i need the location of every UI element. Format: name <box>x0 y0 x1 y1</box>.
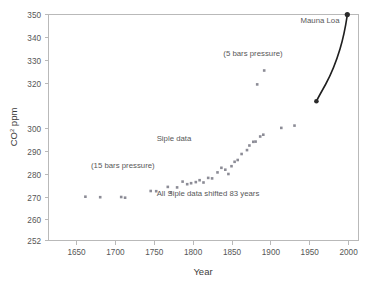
annotation-mauna-loa: Mauna Loa <box>300 16 340 25</box>
y-axis-ticks <box>45 15 49 241</box>
y-ticklabel-340: 340 <box>27 34 41 43</box>
data-point <box>233 161 236 164</box>
data-point <box>207 177 210 180</box>
data-point <box>124 196 127 199</box>
x-ticklabel-1700: 1700 <box>106 248 125 257</box>
data-point <box>256 83 259 86</box>
x-ticklabel-1750: 1750 <box>145 248 164 257</box>
data-point <box>120 196 123 199</box>
data-point <box>186 183 189 186</box>
series-mauna-loa-points <box>314 12 350 103</box>
y-ticklabel-300: 300 <box>27 125 41 134</box>
data-point <box>314 99 319 104</box>
x-ticklabel-1950: 1950 <box>301 248 320 257</box>
y-axis-title-base: CO <box>8 132 19 146</box>
y-ticklabel-350: 350 <box>27 11 41 20</box>
x-ticklabel-1800: 1800 <box>184 248 203 257</box>
y-ticklabel-270: 270 <box>27 194 41 203</box>
y-ticklabel-252: 252 <box>27 237 41 246</box>
data-point <box>259 135 262 138</box>
y-axis-ticklabels: 350 340 330 320 300 290 280 270 260 252 <box>27 11 41 246</box>
data-point <box>216 171 219 174</box>
data-point <box>167 186 170 189</box>
x-axis-ticks <box>77 241 349 245</box>
data-point <box>254 140 257 143</box>
y-axis-title: CO2 ppm <box>8 108 19 147</box>
annotation-5-bars: (5 bars pressure) <box>223 49 283 58</box>
annotation-15-bars: (15 bars pressure) <box>91 161 155 170</box>
data-point <box>240 153 243 156</box>
data-point <box>252 141 255 144</box>
plot-frame <box>49 15 359 241</box>
data-point <box>84 195 87 198</box>
co2-chart-figure: 350 340 330 320 300 290 280 270 260 252 … <box>0 0 378 291</box>
y-axis-title-unit: ppm <box>8 108 19 127</box>
data-point <box>149 190 152 193</box>
data-point <box>236 159 239 162</box>
x-axis-title: Year <box>193 266 212 277</box>
annotation-siple-data: Siple data <box>157 134 192 143</box>
y-ticklabel-320: 320 <box>27 80 41 89</box>
data-point <box>195 181 198 184</box>
data-point <box>99 196 102 199</box>
data-point <box>224 168 227 171</box>
data-point <box>246 149 249 152</box>
data-point <box>230 165 233 168</box>
data-point <box>202 181 205 184</box>
y-ticklabel-280: 280 <box>27 171 41 180</box>
y-ticklabel-260: 260 <box>27 216 41 225</box>
data-point <box>248 144 251 147</box>
data-point <box>227 173 230 176</box>
data-point <box>263 69 266 72</box>
data-point <box>280 127 283 130</box>
data-point <box>345 12 350 17</box>
x-ticklabel-2000: 2000 <box>339 248 358 257</box>
x-axis-ticklabels: 1650 1700 1750 1800 1850 1900 1950 2000 <box>67 248 358 257</box>
annotation-shift-note: All Siple data shifted 83 years <box>157 189 260 198</box>
mauna-loa-curve <box>316 16 347 102</box>
data-point <box>198 179 201 182</box>
data-point <box>190 182 193 185</box>
data-point <box>211 177 214 180</box>
y-ticklabel-290: 290 <box>27 148 41 157</box>
data-point <box>220 167 223 170</box>
x-ticklabel-1650: 1650 <box>67 248 86 257</box>
data-point <box>262 133 265 136</box>
data-point <box>181 180 184 183</box>
y-ticklabel-330: 330 <box>27 57 41 66</box>
data-point <box>293 124 296 127</box>
x-ticklabel-1900: 1900 <box>262 248 281 257</box>
x-ticklabel-1850: 1850 <box>223 248 242 257</box>
svg-text:CO2 ppm: CO2 ppm <box>8 108 19 147</box>
chart-svg: 350 340 330 320 300 290 280 270 260 252 … <box>0 0 378 291</box>
